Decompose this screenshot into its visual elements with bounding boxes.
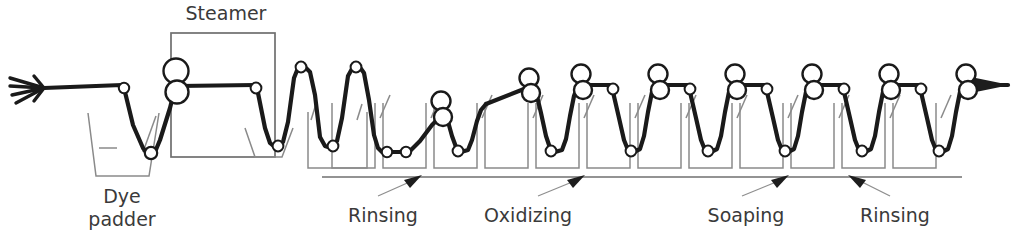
steamer-label: Steamer — [186, 2, 267, 24]
bath-bottom-roller — [934, 146, 945, 157]
bath-bottom-roller — [780, 146, 791, 157]
bath-roller-lower — [959, 81, 977, 99]
web-entry-to-steamer — [44, 85, 255, 155]
steamer-bottom-roller — [328, 141, 339, 152]
web-through-bath-series — [584, 85, 969, 152]
dye-padder-label-line2: padder — [88, 208, 156, 230]
bath-tank — [383, 103, 426, 168]
steamer-bottom-roller — [273, 141, 284, 152]
bath-roller-group — [572, 65, 978, 157]
bath-tank-inner-wall — [941, 95, 951, 118]
bath-tank-inner-wall — [788, 95, 798, 118]
bath-turn-roller — [685, 84, 696, 95]
bath-tank-inner-wall — [635, 95, 645, 118]
immersion-roller — [145, 147, 157, 159]
diagram-canvas: Steamer Dye padder Rinsing Oxidizing Soa… — [0, 0, 1019, 245]
dye-padder-vessel — [88, 113, 159, 176]
steamer-exit-roller — [401, 147, 411, 157]
steamer-top-roller — [296, 62, 307, 73]
rinsing-2-label: Rinsing — [860, 204, 930, 226]
bath-roller-lower — [574, 81, 592, 99]
guide-roller — [119, 83, 129, 93]
bath-turn-roller — [762, 84, 773, 95]
bath-tank — [485, 103, 528, 168]
bath-roller-lower — [882, 81, 900, 99]
web-in-steamer — [255, 66, 399, 152]
lift-roller-lower — [434, 108, 452, 126]
soaping-label: Soaping — [708, 204, 785, 226]
bath-turn-roller — [916, 84, 927, 95]
oxidizing-label: Oxidizing — [484, 204, 572, 226]
bath-bottom-roller — [857, 146, 868, 157]
transition-tank-inner-right — [357, 104, 362, 120]
bath-bottom-roller — [626, 146, 637, 157]
bath-roller-lower — [805, 81, 823, 99]
bath-roller-lower — [728, 81, 746, 99]
bath-bottom-roller — [546, 146, 557, 157]
rinsing-1-label: Rinsing — [348, 204, 418, 226]
bath-turn-roller — [608, 84, 619, 95]
steamer-exit-roller — [382, 147, 392, 157]
bath-tank-inner-wall — [380, 95, 390, 118]
bath-bottom-roller — [453, 146, 464, 157]
bath-turn-roller — [839, 84, 850, 95]
steamer-entry-roller — [251, 83, 262, 94]
bath-roller-lower — [651, 81, 669, 99]
bath-bottom-roller — [703, 146, 714, 157]
process-flow-diagram: Steamer Dye padder Rinsing Oxidizing Soa… — [0, 0, 1019, 245]
steamer-top-roller — [351, 62, 362, 73]
dye-padder-label-line1: Dye — [103, 185, 141, 207]
nip-roller-lower — [166, 81, 189, 104]
fabric-entry-fringe — [10, 76, 44, 103]
transfer-roller-lower — [522, 84, 540, 102]
